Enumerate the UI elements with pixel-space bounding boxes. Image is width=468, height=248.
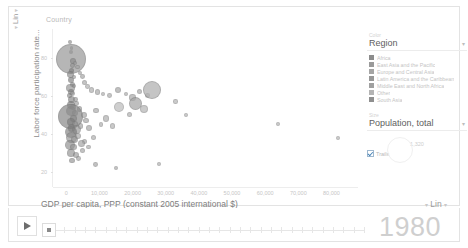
- legend-panel: Color Region ▾ AfricaEast Asia and the P…: [367, 32, 467, 157]
- plot-area[interactable]: [53, 29, 358, 187]
- bubble-point[interactable]: [276, 122, 280, 126]
- timeline-tick: [323, 227, 324, 233]
- x-axis-line: [53, 187, 358, 188]
- bubble-point[interactable]: [80, 148, 85, 153]
- legend-item-label: Latin America and the Caribbean: [377, 76, 454, 82]
- play-button[interactable]: [17, 216, 37, 236]
- bubble-point[interactable]: [184, 113, 188, 117]
- timeline-tick: [271, 227, 272, 233]
- bubble-point[interactable]: [99, 122, 104, 127]
- size-encoding-select[interactable]: Population, total ▾: [367, 118, 467, 131]
- x-tick-label: 30,000: [157, 190, 174, 196]
- bubble-point[interactable]: [78, 140, 85, 147]
- bubble-point[interactable]: [75, 65, 79, 69]
- size-reference-circle: [387, 137, 413, 163]
- bubble-point[interactable]: [86, 145, 91, 150]
- y-axis-title[interactable]: Labor force participation rate...: [32, 9, 41, 159]
- legend-item-label: Africa: [377, 55, 391, 61]
- trails-checkbox[interactable]: [367, 150, 374, 157]
- legend-item[interactable]: East Asia and the Pacific: [367, 61, 467, 68]
- bubble-point[interactable]: [78, 123, 83, 128]
- legend-item[interactable]: Europe and Central Asia: [367, 68, 467, 75]
- bubble-layer: [53, 29, 358, 187]
- chevron-down-icon-size: ▾: [462, 120, 465, 127]
- legend-item-label: Other: [377, 90, 390, 96]
- bubble-point[interactable]: [103, 115, 109, 121]
- bubble-point[interactable]: [69, 158, 75, 164]
- year-display: 1980: [379, 212, 441, 243]
- country-label: Country: [46, 16, 72, 23]
- legend-swatch: [369, 83, 374, 88]
- timeline-tick: [230, 227, 231, 233]
- bubble-point[interactable]: [72, 84, 76, 88]
- y-tick-label: 20: [21, 169, 47, 175]
- bubble-point[interactable]: [336, 136, 340, 140]
- x-tick-label: 50,000: [224, 190, 241, 196]
- bubble-point[interactable]: [89, 87, 94, 92]
- timeline-tick: [147, 227, 148, 233]
- bubble-point[interactable]: [173, 99, 177, 103]
- color-encoding-select[interactable]: Region ▾: [367, 38, 467, 51]
- timeline-tick: [343, 227, 344, 233]
- size-encoding-value: Population, total: [369, 118, 434, 128]
- bubble-point[interactable]: [137, 89, 142, 94]
- bubble-point[interactable]: [75, 133, 81, 139]
- timeline-handle-grip: [47, 228, 51, 232]
- timeline-handle[interactable]: [42, 223, 56, 237]
- bubble-point[interactable]: [76, 156, 81, 161]
- legend-swatch: [369, 76, 374, 81]
- timeline-tick: [199, 227, 200, 233]
- bubble-point[interactable]: [95, 89, 101, 95]
- bubble-point[interactable]: [115, 87, 121, 93]
- legend-item[interactable]: Latin America and the Caribbean: [367, 75, 467, 82]
- bubble-point[interactable]: [124, 92, 128, 96]
- trails-toggle[interactable]: Trails: [367, 150, 467, 157]
- bubble-point[interactable]: [81, 112, 87, 118]
- timeline-tick: [250, 227, 251, 233]
- bubble-point[interactable]: [101, 92, 105, 96]
- bubble-point[interactable]: [114, 102, 124, 112]
- bubble-point[interactable]: [86, 125, 92, 131]
- legend-item[interactable]: Africa: [367, 54, 467, 61]
- size-legend: Size Population, total ▾ 1,320 Trails: [367, 112, 467, 157]
- bubble-point[interactable]: [83, 118, 89, 124]
- bubble-point[interactable]: [140, 105, 148, 113]
- x-tick-label: 70,000: [290, 190, 307, 196]
- timeline-tick: [312, 227, 313, 233]
- legend-swatch: [369, 97, 374, 102]
- bubble-point[interactable]: [127, 112, 132, 117]
- x-tick-label: 80,000: [323, 190, 340, 196]
- legend-swatch: [369, 90, 374, 95]
- bubble-point[interactable]: [107, 93, 112, 98]
- legend-item[interactable]: Other: [367, 89, 467, 96]
- bubble-point[interactable]: [110, 123, 116, 129]
- timeline-tick: [281, 227, 282, 233]
- bubble-point[interactable]: [114, 166, 118, 170]
- size-value-label: 1,320: [367, 141, 467, 147]
- timeline-tick: [85, 227, 86, 233]
- legend-swatch: [369, 55, 374, 60]
- timeline-tick: [261, 227, 262, 233]
- legend-item-label: Middle East and North Africa: [377, 83, 444, 89]
- timeline-tick: [240, 227, 241, 233]
- timeline-tick: [219, 227, 220, 233]
- timeline-tick: [157, 227, 158, 233]
- timeline-tick: [64, 227, 65, 233]
- legend-swatch: [369, 62, 374, 67]
- timeline-tick: [95, 227, 96, 233]
- bubble-point[interactable]: [93, 162, 98, 167]
- bubble-point[interactable]: [80, 74, 85, 79]
- legend-item[interactable]: South Asia: [367, 96, 467, 103]
- chart-card: Country 80604020 010,00020,00030,00040,0…: [8, 6, 460, 206]
- timeline-tick: [126, 227, 127, 233]
- timeline-tick: [178, 227, 179, 233]
- bubble-point[interactable]: [91, 135, 97, 141]
- legend-item[interactable]: Middle East and North Africa: [367, 82, 467, 89]
- y-scale-toggle[interactable]: ▾ Lin ▾: [11, 9, 20, 29]
- bubble-point[interactable]: [157, 162, 161, 166]
- bubble-point[interactable]: [93, 108, 98, 113]
- y-scale-label: Lin: [11, 14, 20, 24]
- timeline-tick: [302, 227, 303, 233]
- bubble-point[interactable]: [143, 81, 161, 99]
- timeline-tick: [137, 227, 138, 233]
